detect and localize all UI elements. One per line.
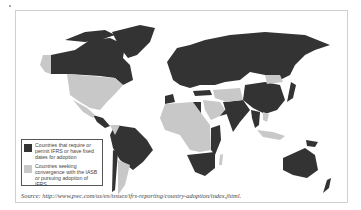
region-central-america: [93, 115, 110, 128]
legend-item-convergence: Countries seeking convergence with the I…: [24, 163, 100, 188]
region-southern-africa: [187, 152, 215, 176]
region-madagascar: [219, 154, 223, 165]
region-usa: [67, 74, 123, 110]
region-turkey: [193, 90, 212, 96]
region-new-zealand: [323, 178, 331, 193]
region-japan: [287, 82, 296, 102]
legend-label: Countries seeking convergence with the I…: [35, 163, 100, 188]
region-thailand: [263, 112, 269, 122]
region-iran: [213, 88, 243, 102]
source-citation: Source: http://www.pwc.com/us/en/issues/…: [21, 192, 241, 199]
legend-swatch-light: [24, 165, 32, 173]
region-chile: [112, 150, 118, 192]
region-argentina: [118, 160, 130, 195]
legend-swatch-dark: [24, 144, 32, 152]
region-india: [223, 100, 250, 132]
region-eurasia: [167, 32, 330, 88]
region-mongolia: [265, 75, 283, 84]
region-morocco: [165, 94, 175, 104]
region-se-asia: [251, 110, 260, 128]
map-legend: Countries that require or permit IFRS or…: [21, 139, 103, 186]
page-marker-dot: [9, 5, 11, 7]
region-indonesia: [257, 130, 285, 140]
region-africa-north: [160, 102, 211, 152]
legend-label: Countries that require or permit IFRS or…: [35, 142, 100, 161]
legend-item-require-permit: Countries that require or permit IFRS or…: [24, 142, 100, 161]
region-alaska: [40, 55, 51, 74]
region-east-africa: [211, 125, 221, 155]
region-png: [306, 140, 318, 147]
region-australia: [283, 148, 318, 178]
region-arabia: [203, 100, 225, 120]
